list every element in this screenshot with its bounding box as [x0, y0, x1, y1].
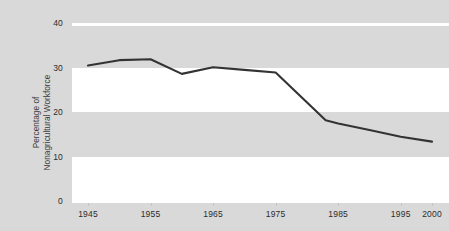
x-tick-mark-1985 [338, 203, 339, 206]
x-tick-label-1995: 1995 [391, 210, 411, 219]
x-axis: 1945195519651975198519952000 [0, 203, 449, 231]
x-tick-mark-2000 [432, 203, 433, 206]
plot-area [0, 0, 449, 231]
x-tick-label-1975: 1975 [266, 210, 286, 219]
chart-figure: Percentage of Nonagricultural Workforce … [0, 0, 449, 231]
x-tick-mark-1945 [88, 203, 89, 206]
x-tick-mark-1975 [276, 203, 277, 206]
x-tick-mark-1995 [401, 203, 402, 206]
x-tick-mark-1955 [151, 203, 152, 206]
x-tick-label-1965: 1965 [203, 210, 223, 219]
x-tick-mark-1965 [213, 203, 214, 206]
data-line-series-0 [88, 59, 432, 141]
x-tick-label-1955: 1955 [141, 210, 161, 219]
x-tick-label-1945: 1945 [78, 210, 98, 219]
x-tick-label-2000: 2000 [422, 210, 442, 219]
x-tick-label-1985: 1985 [328, 210, 348, 219]
